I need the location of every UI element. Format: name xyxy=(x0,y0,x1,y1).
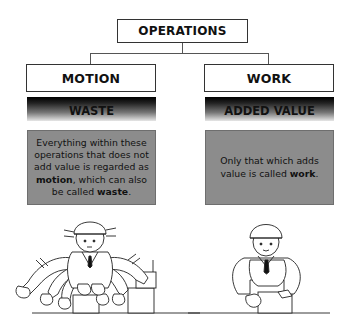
connector-right-down xyxy=(268,53,269,64)
waste-label: WASTE xyxy=(69,104,114,118)
waste-category-bar: WASTE xyxy=(27,97,156,121)
work-label: WORK xyxy=(247,71,292,86)
work-keyword: work xyxy=(290,168,316,179)
added-value-category-bar: ADDED VALUE xyxy=(205,97,334,121)
connector-left-down xyxy=(90,53,91,64)
motion-label: MOTION xyxy=(62,71,121,86)
work-description: Only that which adds value is called wor… xyxy=(212,155,327,179)
motion-description-box: Everything within these operations that … xyxy=(27,130,156,205)
calm-worker-illustration xyxy=(180,210,352,331)
waste-keyword: waste xyxy=(97,186,128,197)
motion-box: MOTION xyxy=(26,64,156,92)
operations-label: OPERATIONS xyxy=(138,24,226,38)
busy-worker-illustration xyxy=(0,210,200,331)
work-description-box: Only that which adds value is called wor… xyxy=(205,130,334,205)
operations-box: OPERATIONS xyxy=(117,19,248,43)
connector-horizontal xyxy=(90,53,269,54)
work-box: WORK xyxy=(204,64,334,92)
motion-keyword: motion xyxy=(36,174,73,185)
added-value-label: ADDED VALUE xyxy=(224,104,315,118)
motion-description: Everything within these operations that … xyxy=(34,137,149,198)
